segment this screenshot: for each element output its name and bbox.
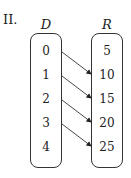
arrow-3-to-25	[62, 124, 91, 146]
arrow-1-to-15	[62, 76, 91, 98]
arrow-0-to-10	[62, 52, 91, 74]
arrow-2-to-20	[62, 100, 91, 122]
mapping-arrows	[0, 0, 131, 178]
